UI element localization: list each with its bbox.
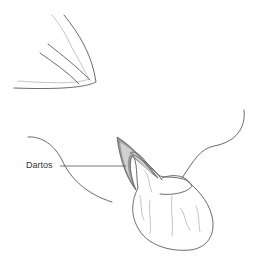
dartos-layer — [117, 137, 162, 190]
skin-flap-inset — [14, 15, 96, 89]
skin-contour-right — [182, 110, 244, 178]
testis — [132, 154, 213, 250]
dartos-label: Dartos — [26, 161, 53, 170]
anatomical-illustration — [0, 0, 257, 265]
